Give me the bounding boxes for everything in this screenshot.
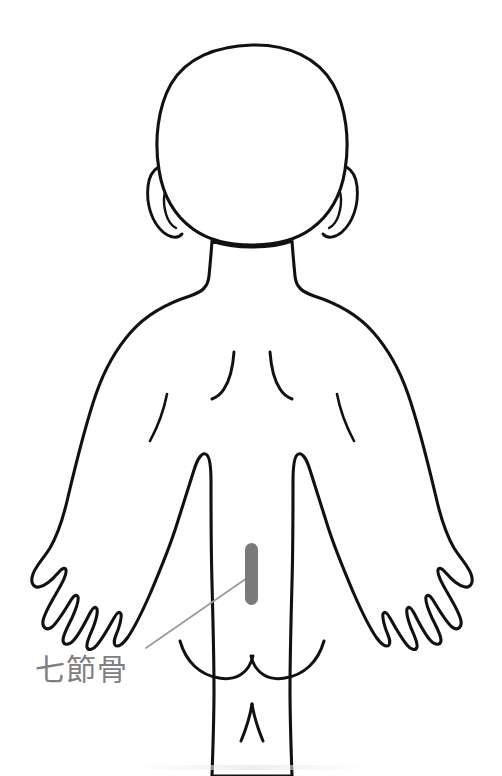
acupoint-diagram: 七節骨 [0,0,502,776]
acupoint-label: 七節骨 [35,652,128,687]
torso-outline [32,241,472,776]
body-figure: 七節骨 [0,0,502,776]
acupoint-marker-qijiegu[interactable] [245,543,258,605]
body-silhouette [157,45,347,245]
